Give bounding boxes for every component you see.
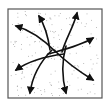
- container-box: [8, 9, 102, 98]
- diffusion-diagram: [0, 0, 110, 104]
